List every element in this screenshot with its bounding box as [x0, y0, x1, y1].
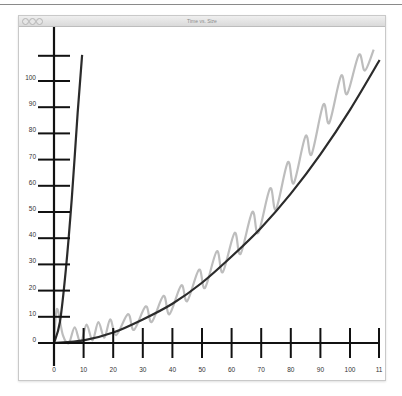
y-tick-label: 20: [29, 284, 37, 291]
x-tick-label: 40: [169, 366, 177, 373]
x-tick-label: 90: [317, 366, 325, 373]
fit-curve-line: [54, 60, 380, 343]
y-tick-label: 50: [29, 205, 37, 212]
x-tick-label: 80: [287, 366, 295, 373]
y-tick-label: 100: [25, 74, 36, 81]
x-tick-label: 20: [110, 366, 118, 373]
measured-series-line: [54, 50, 374, 344]
x-tick-label: 0: [52, 366, 56, 373]
steep-curve-line: [54, 55, 82, 343]
y-tick-label: 30: [29, 257, 37, 264]
x-tick-label: 70: [258, 366, 266, 373]
x-tick-label: 60: [228, 366, 236, 373]
x-tick-label: 11: [376, 366, 383, 373]
x-tick-label: 100: [345, 366, 356, 373]
y-tick-label: 40: [29, 231, 37, 238]
y-tick-label: 10: [29, 310, 37, 317]
y-tick-label: 0: [32, 336, 36, 343]
x-tick-label: 50: [198, 366, 206, 373]
x-tick-label: 30: [139, 366, 147, 373]
y-tick-label: 70: [29, 153, 37, 160]
y-tick-label: 60: [29, 179, 37, 186]
plot-area: 0102030405060708090100010203040506070809…: [0, 0, 402, 396]
tick-labels: 0102030405060708090100010203040506070809…: [25, 74, 383, 373]
y-tick-label: 90: [29, 100, 37, 107]
y-tick-label: 80: [29, 126, 37, 133]
x-tick-label: 10: [80, 366, 88, 373]
axes: [38, 27, 380, 366]
series-layer: [54, 50, 380, 344]
